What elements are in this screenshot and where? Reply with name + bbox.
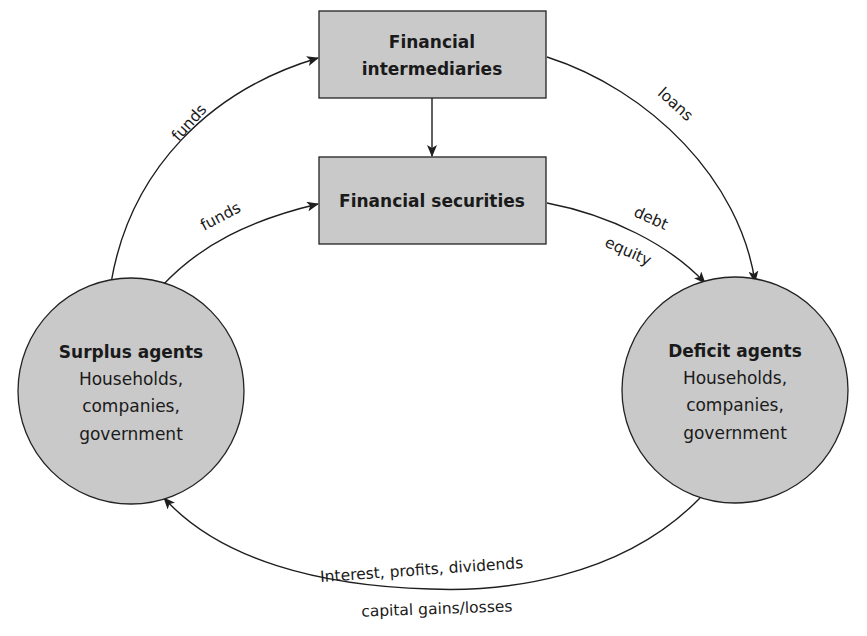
node-financial-securities: Financial securities <box>319 157 546 244</box>
node-line: Households, <box>79 369 183 389</box>
edge-label-funds-upper: funds <box>168 101 210 145</box>
edge-label-loans: loans <box>654 84 697 125</box>
edge-label-debt: debt <box>631 203 671 234</box>
node-title: intermediaries <box>362 59 503 79</box>
node-title: Financial securities <box>339 191 525 211</box>
edge-label-funds-lower: funds <box>197 199 243 235</box>
node-line: government <box>683 423 787 443</box>
financial-flow-diagram: Financial intermediaries Financial secur… <box>0 0 867 636</box>
edge-label-return-bottom: capital gains/losses <box>361 597 513 620</box>
node-title: Surplus agents <box>59 342 203 362</box>
node-surplus-agents: Surplus agents Households, companies, go… <box>18 278 244 504</box>
node-line: government <box>79 424 183 444</box>
node-title: Financial <box>389 32 475 52</box>
node-line: Households, <box>683 368 787 388</box>
node-deficit-agents: Deficit agents Households, companies, go… <box>622 277 848 503</box>
edge-label-return-top: Interest, profits, dividends <box>320 554 524 586</box>
node-line: companies, <box>686 395 784 415</box>
node-financial-intermediaries: Financial intermediaries <box>319 11 546 98</box>
node-line: companies, <box>82 396 180 416</box>
arrow-intermediaries-to-deficit <box>547 57 755 282</box>
node-title: Deficit agents <box>668 341 802 361</box>
arrow-surplus-to-intermediaries <box>111 58 318 283</box>
